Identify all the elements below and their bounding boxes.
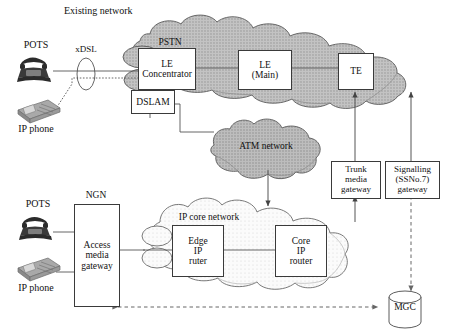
core-ip-router-box[interactable]: Core IP router bbox=[275, 225, 327, 277]
te-box[interactable]: TE bbox=[338, 53, 374, 90]
atm-cloud bbox=[211, 119, 320, 179]
diagram-canvas bbox=[0, 0, 451, 333]
ip-phone-bottom-icon bbox=[18, 258, 60, 281]
mgc-cylinder bbox=[389, 291, 421, 328]
line-dslam-to-atm bbox=[172, 104, 214, 132]
le-main-box[interactable]: LE (Main) bbox=[238, 50, 292, 90]
pots-phone-top-icon bbox=[17, 58, 51, 83]
edge-ip-router-box[interactable]: Edge IP ruter bbox=[172, 225, 224, 277]
dslam-box[interactable]: DSLAM bbox=[131, 90, 175, 114]
network-architecture-diagram: Existing network POTS IP phone xDSL PSTN… bbox=[0, 0, 451, 333]
pots-phone-bottom-icon bbox=[19, 217, 52, 240]
ip-phone-top-icon bbox=[18, 100, 60, 123]
access-media-gateway-box[interactable]: Access media gateway bbox=[74, 204, 120, 307]
trunk-media-gateway-box[interactable]: Trunk media gateway bbox=[331, 161, 381, 199]
xdsl-ellipse bbox=[77, 58, 95, 90]
le-concentrator-box[interactable]: LE Concentrator bbox=[138, 48, 196, 90]
signalling-gateway-box[interactable]: Signalling (SSNo.7) gateway bbox=[385, 161, 440, 199]
